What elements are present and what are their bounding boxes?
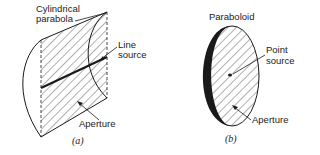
point-source — [228, 73, 232, 76]
aperture-label-a: Aperture — [79, 119, 115, 129]
paraboloid-figure — [203, 26, 265, 126]
point-source-label-line1: Point — [266, 45, 288, 55]
line-source-label-line2: source — [118, 50, 147, 60]
paraboloid-label: Paraboloid — [209, 12, 254, 22]
aperture-label-b: Aperture — [252, 115, 288, 125]
cylindrical-label-line2: parabola — [36, 14, 73, 24]
caption-b: (b) — [225, 134, 237, 144]
aperture-disc-b — [205, 26, 259, 126]
outer-parabolic-arc — [23, 40, 41, 137]
caption-a: (a) — [72, 136, 84, 146]
point-source-label-line2: source — [266, 56, 295, 66]
